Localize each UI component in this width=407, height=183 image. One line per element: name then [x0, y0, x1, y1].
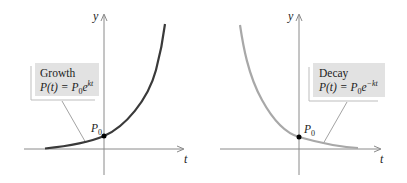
decay-title: Decay [319, 67, 349, 80]
decay-chart: t y Decay P(t) = P0e−kt P0 [220, 9, 385, 175]
growth-chart: t y Growth P(t) = P0ekt P0 [24, 9, 188, 175]
growth-y-label: y [92, 9, 99, 23]
growth-p0-label: P0 [90, 122, 102, 137]
decay-leader-line [323, 102, 347, 144]
growth-title: Growth [40, 67, 75, 79]
exponential-charts: t y Growth P(t) = P0ekt P0 t y Decay P(t… [0, 0, 407, 183]
growth-p0-dot [102, 134, 107, 139]
decay-p0-dot [297, 135, 302, 140]
decay-y-label: y [287, 9, 294, 23]
growth-leader-line [62, 101, 86, 143]
growth-t-label: t [184, 152, 188, 166]
decay-t-label: t [380, 152, 384, 166]
decay-p0-label: P0 [303, 123, 315, 138]
